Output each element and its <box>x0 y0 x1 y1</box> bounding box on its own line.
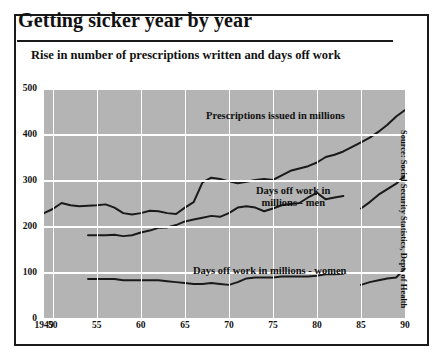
gridline-vertical <box>97 88 99 318</box>
x-axis-tick-label: 60 <box>136 320 146 330</box>
series-label-men-line1: Days off work in <box>256 185 330 196</box>
series-label-men: Days off work in millions - men <box>256 185 330 209</box>
x-axis-tick-label: 55 <box>92 320 102 330</box>
x-axis-tick-label: 90 <box>400 320 410 330</box>
gridline-vertical <box>141 88 143 318</box>
x-axis-tick-label: 65 <box>180 320 190 330</box>
x-axis-tick-label: 85 <box>356 320 366 330</box>
x-axis-tick-label: 80 <box>312 320 322 330</box>
x-axis-tick-label: 70 <box>224 320 234 330</box>
plot-area <box>44 88 405 318</box>
title-divider <box>17 40 393 42</box>
gridline-horizontal <box>44 88 405 90</box>
series-label-women: Days off work in millions - women <box>193 265 346 277</box>
y-axis-tick-label: 200 <box>23 221 37 231</box>
gridline-horizontal <box>44 226 405 228</box>
gridline-horizontal <box>44 134 405 136</box>
y-axis-tick-label: 300 <box>23 175 37 185</box>
page-title: Getting sicker year by year <box>18 9 252 32</box>
chart-subtitle: Rise in number of prescriptions written … <box>31 48 341 63</box>
source-note: Source: Social Security Statistics, Dept… <box>399 130 409 308</box>
gridline-vertical <box>185 88 187 318</box>
x-axis-tick-label: 50 <box>48 320 58 330</box>
gridline-vertical <box>53 88 55 318</box>
x-axis-tick-label: 75 <box>268 320 278 330</box>
gridline-vertical <box>229 88 231 318</box>
chart-figure: Getting sicker year by year Rise in numb… <box>0 0 444 362</box>
gridline-vertical <box>361 88 363 318</box>
y-axis-tick-label: 400 <box>23 129 37 139</box>
y-axis-tick-label: 100 <box>23 267 37 277</box>
series-label-prescriptions: Prescriptions issued in millions <box>206 110 345 122</box>
series-label-men-line2: millions - men <box>261 197 325 208</box>
y-axis-labels: 0100200300400500 <box>0 88 42 318</box>
x-axis-labels: 1949505560657075808590 <box>0 320 415 338</box>
gridline-horizontal <box>44 180 405 182</box>
y-axis-tick-label: 500 <box>23 83 37 93</box>
